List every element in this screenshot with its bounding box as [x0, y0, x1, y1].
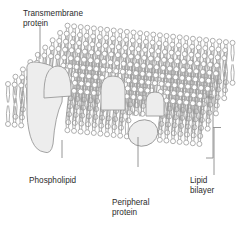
phospholipid-head — [178, 91, 183, 96]
phospholipid-head — [12, 122, 17, 127]
phospholipid-head — [190, 44, 195, 49]
phospholipid-head — [176, 51, 181, 56]
phospholipid-head — [187, 68, 192, 73]
phospholipid-head — [127, 70, 132, 75]
phospholipid-head — [91, 90, 96, 95]
phospholipid-head — [121, 61, 126, 66]
phospholipid-head — [177, 35, 182, 40]
phospholipid-head — [167, 66, 172, 71]
phospholipid-head — [154, 65, 159, 70]
phospholipid-head — [130, 38, 135, 43]
phospholipid-head — [168, 58, 173, 63]
phospholipid-head — [64, 31, 69, 36]
phospholipid-head — [141, 63, 146, 68]
phospholipid-head — [92, 82, 97, 87]
phospholipid-tail — [231, 64, 232, 80]
phospholipid-head — [180, 67, 185, 72]
phospholipid-head — [12, 82, 17, 87]
phospholipid-head — [99, 123, 104, 128]
phospholipid-head — [56, 46, 61, 51]
phospholipid-head — [222, 56, 227, 61]
phospholipid-head — [74, 64, 79, 69]
phospholipid-head — [151, 32, 156, 37]
phospholipid-head — [138, 95, 143, 100]
phospholipid-head — [188, 60, 193, 65]
phospholipid-head — [119, 125, 124, 130]
phospholipid-head — [170, 42, 175, 47]
phospholipid-head — [171, 34, 176, 39]
phospholipid-head — [13, 74, 18, 79]
phospholipid-head — [198, 93, 203, 98]
phospholipid-head — [138, 31, 143, 36]
phospholipid-head — [65, 128, 70, 133]
phospholipid-head — [174, 67, 179, 72]
phospholipid-head — [120, 69, 125, 74]
phospholipid-head — [84, 33, 89, 38]
phospholipid-head — [200, 70, 205, 75]
phospholipid-head — [157, 33, 162, 38]
phospholipid-head — [13, 114, 18, 119]
phospholipid-head — [153, 73, 158, 78]
phospholipid-head — [143, 39, 148, 44]
phospholipid-head — [80, 73, 85, 78]
phospholipid-head — [50, 38, 55, 43]
phospholipid-head — [217, 39, 222, 44]
phospholipid-head — [82, 49, 87, 54]
phospholipid-tail — [22, 88, 23, 104]
phospholipid — [6, 106, 11, 127]
phospholipid-head — [201, 62, 206, 67]
phospholipid-head — [230, 80, 235, 85]
phospholipid-head — [6, 82, 11, 87]
phospholipid-head — [207, 70, 212, 75]
phospholipid-head — [96, 43, 101, 48]
phospholipid-head — [137, 39, 142, 44]
label-lipid-bilayer: Lipid bilayer — [190, 176, 214, 195]
phospholipid-head — [131, 95, 136, 100]
phospholipid-head — [180, 75, 185, 80]
phospholipid-head — [136, 47, 141, 52]
phospholipid-head — [148, 56, 153, 61]
phospholipid-head — [68, 56, 73, 61]
phospholipid-head — [186, 76, 191, 81]
phospholipid-head — [128, 62, 133, 67]
phospholipid-head — [166, 82, 171, 87]
phospholipid-head — [62, 55, 67, 60]
phospholipid-head — [150, 40, 155, 45]
phospholipid-head — [175, 59, 180, 64]
phospholipid-head — [66, 120, 71, 125]
phospholipid-head — [159, 81, 164, 86]
phospholipid-head — [105, 124, 110, 129]
phospholipid-head — [184, 100, 189, 105]
phospholipid-head — [195, 53, 200, 58]
phospholipid-head — [70, 40, 75, 45]
phospholipid-head — [177, 139, 182, 144]
phospholipid-head — [140, 71, 145, 76]
phospholipid-head — [20, 67, 25, 72]
phospholipid-head — [194, 69, 199, 74]
phospholipid-head — [132, 87, 137, 92]
phospholipid-head — [87, 66, 92, 71]
label-peripheral-protein: Peripheral protein — [112, 198, 150, 217]
membrane-diagram: Transmembrane protein Phospholipid Perip… — [0, 0, 247, 226]
phospholipid-head — [172, 83, 177, 88]
phospholipid-head — [191, 93, 196, 98]
phospholipid-head — [184, 140, 189, 145]
phospholipid-head — [162, 57, 167, 62]
phospholipid-head — [209, 54, 214, 59]
phospholipid — [230, 64, 235, 85]
phospholipid-head — [146, 80, 151, 85]
phospholipid-head — [160, 73, 165, 78]
phospholipid-head — [199, 78, 204, 83]
phospholipid-tail — [231, 45, 232, 61]
phospholipid-head — [91, 26, 96, 31]
phospholipid-head — [155, 57, 160, 62]
phospholipid-head — [42, 53, 47, 58]
phospholipid-head — [203, 46, 208, 51]
phospholipid-head — [63, 39, 68, 44]
phospholipid-head — [171, 91, 176, 96]
phospholipid-tail — [6, 106, 7, 122]
phospholipid-head — [81, 57, 86, 62]
phospholipid-head — [48, 54, 53, 59]
phospholipid-head — [49, 46, 54, 51]
phospholipid-head — [164, 33, 169, 38]
